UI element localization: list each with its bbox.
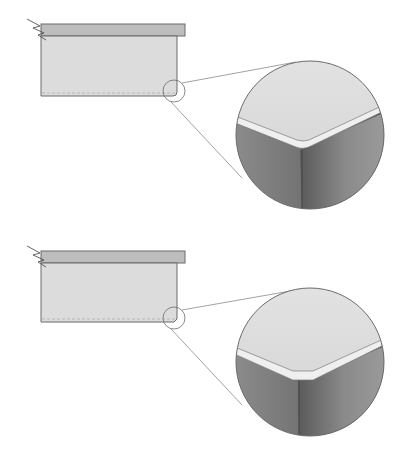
panel-chamfered-edge — [27, 246, 390, 445]
leader-line — [171, 102, 242, 178]
panel-rounded-edge — [27, 19, 390, 215]
leader-line — [171, 329, 242, 405]
edge-profile-diagram — [0, 0, 413, 461]
magnified-chamfered-edge — [230, 285, 390, 445]
side-view-part — [27, 19, 185, 96]
magnified-rounded-edge — [230, 55, 390, 215]
side-view-part — [27, 246, 185, 322]
